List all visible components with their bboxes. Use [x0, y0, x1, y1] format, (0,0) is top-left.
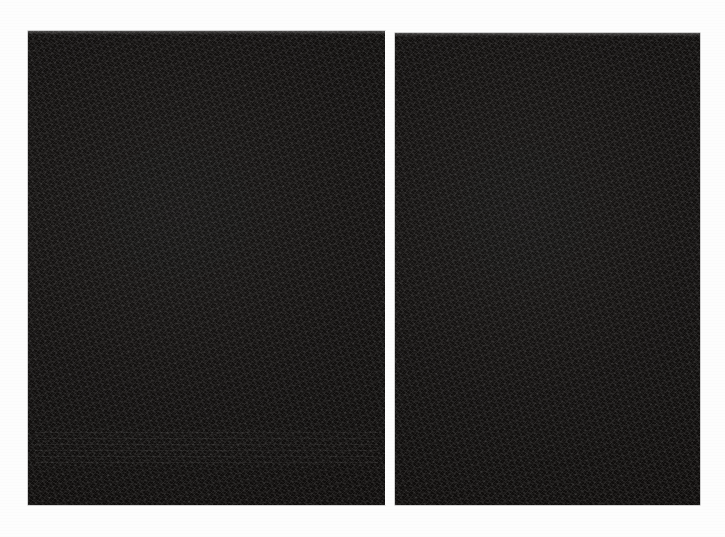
scanned-page-right[interactable]: [395, 33, 700, 505]
scanned-document-viewport: Two facing scanned document pages, both …: [0, 0, 725, 537]
page-top-edge-highlight: [28, 31, 385, 35]
page-faint-text-band: [35, 427, 378, 463]
page-top-edge-highlight: [395, 33, 700, 37]
page-grain-fine: [395, 33, 700, 505]
page-gutter-divider: [385, 31, 395, 505]
scanned-page-left[interactable]: [28, 31, 385, 505]
